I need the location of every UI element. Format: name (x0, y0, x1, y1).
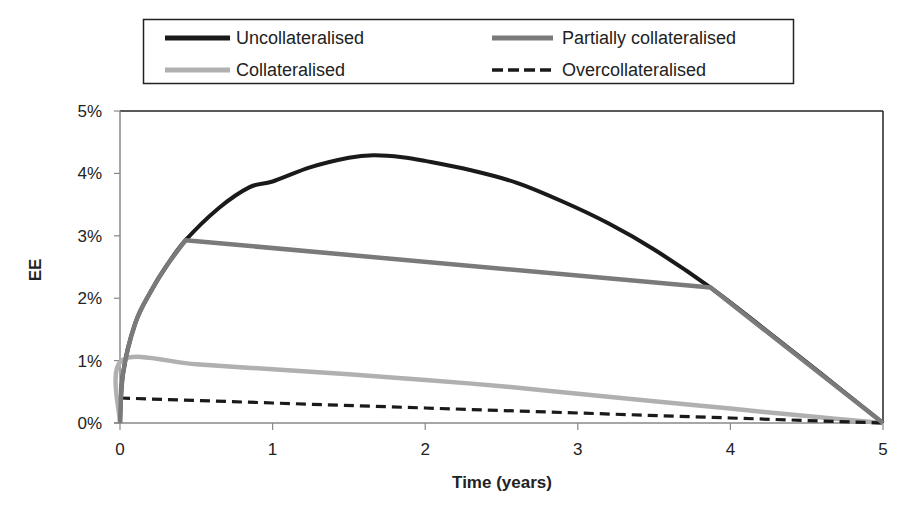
series-layer (116, 155, 883, 423)
legend-label: Overcollateralised (562, 60, 706, 80)
y-tick-label: 1% (77, 352, 102, 371)
y-tick-label: 4% (77, 164, 102, 183)
y-axis-title: EE (26, 259, 45, 282)
chart: Uncollateralised Partially collateralise… (0, 0, 905, 514)
x-tick-label: 0 (115, 440, 124, 459)
y-tick-label: 5% (77, 102, 102, 121)
x-tick-label: 1 (268, 440, 277, 459)
x-axis: 012345 (115, 423, 887, 459)
y-tick-label: 2% (77, 289, 102, 308)
legend-label: Collateralised (236, 60, 345, 80)
series-partially-collateralised (120, 240, 883, 423)
legend-label: Uncollateralised (236, 28, 364, 48)
series-collateralised (116, 357, 883, 423)
legend: Uncollateralised Partially collateralise… (144, 20, 794, 84)
x-tick-label: 4 (726, 440, 735, 459)
y-tick-label: 0% (77, 414, 102, 433)
series-uncollateralised (120, 155, 883, 423)
x-axis-title: Time (years) (452, 473, 552, 492)
legend-label: Partially collateralised (562, 28, 736, 48)
x-tick-label: 5 (878, 440, 887, 459)
x-tick-label: 2 (420, 440, 429, 459)
x-tick-label: 3 (573, 440, 582, 459)
y-tick-label: 3% (77, 227, 102, 246)
